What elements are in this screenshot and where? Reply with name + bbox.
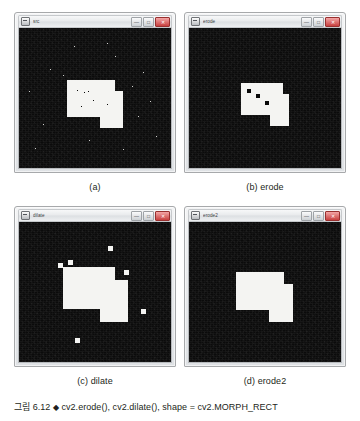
window-title: dilate (33, 213, 131, 219)
minimize-button[interactable]: — (131, 211, 142, 221)
maximize-icon: □ (147, 213, 150, 218)
os-window-src[interactable]: src — □ ✕ (14, 12, 176, 173)
shape-main-bottom (236, 272, 270, 310)
noise-hole (77, 90, 78, 91)
close-icon: ✕ (161, 19, 165, 24)
shape-main-right (100, 280, 128, 322)
image-canvas-src (18, 27, 172, 169)
noise-hole (81, 106, 82, 107)
close-button[interactable]: ✕ (325, 211, 340, 221)
subcaption-d: (d) erode2 (184, 376, 346, 386)
close-button[interactable]: ✕ (155, 17, 170, 27)
shape-main-bottom (67, 80, 101, 117)
maximize-icon: □ (317, 213, 320, 218)
noise-hole (265, 101, 269, 105)
noise-speck (74, 46, 75, 47)
maximize-button[interactable]: □ (313, 17, 324, 27)
noise-speck (132, 86, 133, 87)
dilated-speck (124, 270, 129, 275)
minimize-icon: — (304, 213, 309, 218)
os-window-erode[interactable]: erode — □ ✕ (184, 12, 346, 173)
maximize-button[interactable]: □ (143, 211, 154, 221)
dilated-speck (108, 246, 113, 251)
window-controls[interactable]: — □ ✕ (301, 211, 340, 220)
os-window-dilate[interactable]: dilate — □ ✕ (14, 206, 176, 367)
dilated-speck (141, 309, 146, 314)
noise-speck (63, 75, 64, 76)
noise-hole (107, 104, 108, 105)
dilated-speck (58, 263, 63, 268)
minimize-icon: — (134, 213, 139, 218)
noise-speck (43, 124, 44, 125)
figure-caption-text: cv2.erode(), cv2.dilate(), shape = cv2.M… (61, 402, 277, 412)
noise-speck (138, 116, 139, 117)
shape-main-bottom (241, 83, 271, 115)
noise-hole (84, 92, 85, 93)
minimize-button[interactable]: — (131, 17, 142, 27)
maximize-button[interactable]: □ (143, 17, 154, 27)
noise-speck (156, 136, 157, 137)
subcaption-b: (b) erode (184, 182, 346, 192)
subcaption-c: (c) dilate (14, 376, 176, 386)
minimize-icon: — (134, 19, 139, 24)
app-icon (21, 211, 30, 220)
maximize-icon: □ (147, 19, 150, 24)
window-controls[interactable]: — □ ✕ (131, 17, 170, 26)
minimize-icon: — (304, 19, 309, 24)
app-icon (191, 211, 200, 220)
figure-caption: 그림 6.12◆cv2.erode(), cv2.dilate(), shape… (14, 400, 350, 413)
noise-speck (35, 148, 36, 149)
titlebar-src[interactable]: src — □ ✕ (18, 15, 172, 27)
dilated-speck (68, 260, 73, 265)
image-canvas-dilate (18, 221, 172, 363)
noise-hole (247, 89, 251, 93)
noise-speck (143, 72, 144, 73)
window-title: erode (203, 19, 301, 25)
noise-speck (107, 43, 108, 44)
noise-speck (115, 56, 116, 57)
minimize-button[interactable]: — (301, 17, 312, 27)
panel-src: src — □ ✕ (14, 12, 176, 206)
panel-grid: src — □ ✕ (14, 12, 346, 388)
figure-container: src — □ ✕ (0, 0, 360, 421)
shape-main-right (269, 284, 293, 322)
image-canvas-erode2 (188, 221, 342, 363)
titlebar-erode[interactable]: erode — □ ✕ (188, 15, 342, 27)
shape-main-right (270, 94, 289, 126)
panel-erode2: erode2 — □ ✕ (d) erode2 (184, 206, 346, 388)
shape-main-right (100, 91, 123, 128)
close-icon: ✕ (331, 19, 335, 24)
window-title: erode2 (203, 213, 301, 219)
window-title: src (33, 19, 131, 25)
os-window-erode2[interactable]: erode2 — □ ✕ (184, 206, 346, 367)
close-button[interactable]: ✕ (325, 17, 340, 27)
minimize-button[interactable]: — (301, 211, 312, 221)
noise-speck (29, 91, 30, 92)
noise-hole (93, 100, 94, 101)
app-icon (191, 17, 200, 26)
shape-main-bottom (63, 267, 101, 309)
figure-number: 그림 6.12 (14, 402, 50, 412)
close-icon: ✕ (161, 213, 165, 218)
app-icon (21, 17, 30, 26)
close-icon: ✕ (331, 213, 335, 218)
maximize-button[interactable]: □ (313, 211, 324, 221)
noise-hole (256, 94, 260, 98)
noise-hole (88, 91, 89, 92)
dilated-speck (75, 338, 80, 343)
titlebar-erode2[interactable]: erode2 — □ ✕ (188, 209, 342, 221)
window-controls[interactable]: — □ ✕ (301, 17, 340, 26)
image-canvas-erode (188, 27, 342, 169)
maximize-icon: □ (317, 19, 320, 24)
noise-speck (123, 149, 124, 150)
noise-speck (89, 140, 90, 141)
panel-erode: erode — □ ✕ (b) erode (184, 12, 346, 206)
diamond-icon: ◆ (53, 403, 59, 412)
titlebar-dilate[interactable]: dilate — □ ✕ (18, 209, 172, 221)
close-button[interactable]: ✕ (155, 211, 170, 221)
subcaption-a: (a) (14, 182, 176, 192)
window-controls[interactable]: — □ ✕ (131, 211, 170, 220)
noise-speck (150, 101, 151, 102)
noise-speck (50, 69, 51, 70)
panel-dilate: dilate — □ ✕ (14, 206, 176, 388)
